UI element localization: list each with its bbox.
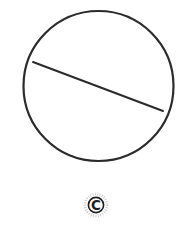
figure-root: C [0, 0, 179, 234]
geometry-diagram: C [0, 0, 179, 234]
copyright-letter: C [91, 197, 101, 213]
